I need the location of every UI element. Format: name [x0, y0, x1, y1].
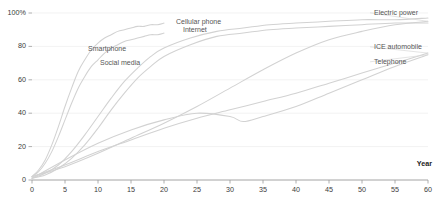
series-label-social-media: Social media — [100, 59, 140, 66]
y-tick-label: 80 — [18, 41, 26, 50]
y-tick-label: 0 — [22, 175, 26, 184]
y-axis-tick-labels: 020406080100% — [8, 8, 27, 184]
x-tick-label: 45 — [325, 185, 333, 194]
series-label-telephone: Telephone — [374, 58, 406, 66]
series-label-ice-automobile: ICE automobile — [374, 43, 422, 50]
series-curves — [32, 18, 428, 178]
y-tick-label: 40 — [18, 108, 26, 117]
x-tick-label: 5 — [63, 185, 67, 194]
x-tick-label: 0 — [30, 185, 34, 194]
y-tick-label: 100% — [8, 8, 27, 17]
x-axis-title: Year — [417, 159, 432, 168]
series-label-internet: Internet — [183, 26, 207, 33]
x-tick-label: 25 — [193, 185, 201, 194]
series-line-telephone — [32, 55, 428, 179]
x-tick-label: 15 — [127, 185, 135, 194]
x-tick-label: 40 — [292, 185, 300, 194]
x-tick-label: 60 — [424, 185, 432, 194]
y-tick-label: 60 — [18, 75, 26, 84]
chart-plot-area: 020406080100% 051015202530354045505560 S… — [0, 0, 440, 203]
x-tick-label: 20 — [160, 185, 168, 194]
series-label-smartphone: Smartphone — [88, 45, 126, 53]
y-tick-label: 20 — [18, 142, 26, 151]
series-label-electric-power: Electric power — [374, 9, 419, 17]
x-tick-label: 30 — [226, 185, 234, 194]
technology-adoption-chart: 020406080100% 051015202530354045505560 S… — [0, 0, 440, 203]
series-line-social-media — [32, 33, 164, 177]
series-line-ice-automobile — [32, 53, 428, 177]
x-tick-label: 50 — [358, 185, 366, 194]
axes — [29, 13, 429, 184]
x-axis-tick-labels: 051015202530354045505560 — [30, 185, 432, 194]
series-label-cellular-phone: Cellular phone — [176, 18, 221, 26]
x-tick-label: 35 — [259, 185, 267, 194]
x-tick-label: 10 — [94, 185, 102, 194]
x-tick-label: 55 — [391, 185, 399, 194]
